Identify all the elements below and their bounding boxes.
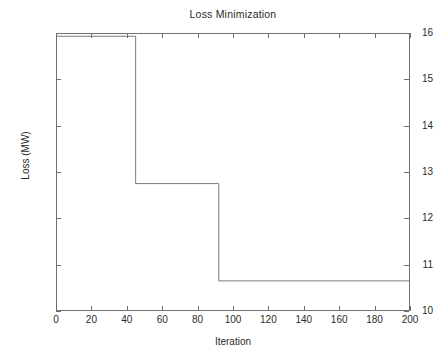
- loss-series-plot: [56, 33, 410, 311]
- x-tick-label: 0: [36, 315, 76, 325]
- x-tick-label: 180: [355, 315, 395, 325]
- x-tick-mark: [375, 306, 376, 311]
- x-tick-mark-top: [410, 33, 411, 38]
- x-tick-label: 120: [248, 315, 288, 325]
- x-tick-mark-top: [268, 33, 269, 38]
- x-tick-mark-top: [375, 33, 376, 38]
- y-tick-label: 13: [387, 167, 437, 177]
- x-tick-mark-top: [198, 33, 199, 38]
- x-axis-label: Iteration: [56, 336, 410, 347]
- y-tick-mark: [56, 172, 61, 173]
- x-tick-mark: [127, 306, 128, 311]
- y-tick-mark: [56, 126, 61, 127]
- y-tick-mark: [56, 218, 61, 219]
- x-tick-label: 60: [142, 315, 182, 325]
- x-tick-mark-top: [304, 33, 305, 38]
- x-tick-mark: [233, 306, 234, 311]
- y-axis-label: Loss (MW): [20, 111, 31, 201]
- x-tick-label: 40: [107, 315, 147, 325]
- x-tick-mark: [410, 306, 411, 311]
- x-tick-mark-top: [162, 33, 163, 38]
- y-tick-label: 12: [387, 213, 437, 223]
- y-tick-mark: [56, 265, 61, 266]
- x-tick-mark: [198, 306, 199, 311]
- x-tick-mark-top: [339, 33, 340, 38]
- x-tick-mark-top: [91, 33, 92, 38]
- y-tick-label: 16: [387, 28, 437, 38]
- y-tick-mark: [56, 311, 61, 312]
- y-tick-label: 11: [387, 260, 437, 270]
- x-tick-mark: [162, 306, 163, 311]
- x-tick-mark: [268, 306, 269, 311]
- loss-minimization-figure: Loss Minimization Loss (MW) Iteration 10…: [0, 0, 437, 361]
- x-tick-label: 20: [71, 315, 111, 325]
- x-tick-mark-top: [56, 33, 57, 38]
- x-tick-label: 160: [319, 315, 359, 325]
- x-tick-label: 200: [390, 315, 430, 325]
- x-tick-mark: [339, 306, 340, 311]
- x-tick-mark-top: [127, 33, 128, 38]
- y-tick-mark: [56, 79, 61, 80]
- x-tick-mark: [56, 306, 57, 311]
- chart-title: Loss Minimization: [56, 8, 410, 20]
- x-tick-label: 140: [284, 315, 324, 325]
- x-tick-mark: [304, 306, 305, 311]
- x-tick-label: 100: [213, 315, 253, 325]
- x-tick-mark-top: [233, 33, 234, 38]
- y-tick-label: 14: [387, 121, 437, 131]
- x-tick-mark: [91, 306, 92, 311]
- y-tick-label: 15: [387, 74, 437, 84]
- loss-step-line: [56, 36, 410, 281]
- x-tick-label: 80: [178, 315, 218, 325]
